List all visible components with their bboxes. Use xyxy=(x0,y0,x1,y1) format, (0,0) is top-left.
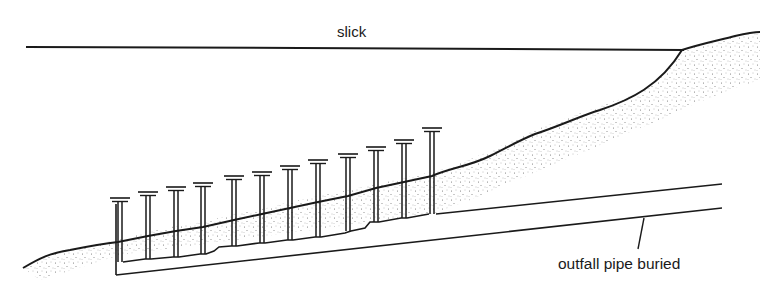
ground-stipple xyxy=(23,32,760,280)
water-surface-line xyxy=(26,47,684,50)
wellpoint-diagram: slick outfall pipe buried xyxy=(0,0,771,297)
outfall-leader-line xyxy=(638,218,644,249)
outfall-pipe-label: outfall pipe buried xyxy=(558,256,680,272)
slick-label: slick xyxy=(337,24,366,39)
diagram-drawing xyxy=(0,0,771,297)
